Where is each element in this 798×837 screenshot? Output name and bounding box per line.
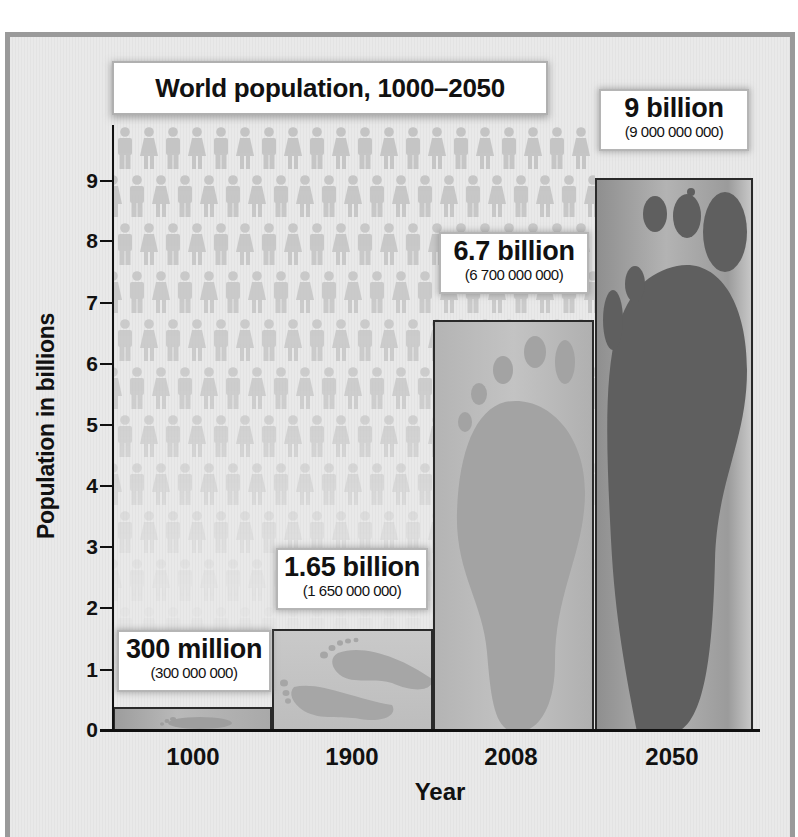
data-label-main: 9 billion bbox=[601, 93, 747, 123]
data-label-main: 1.65 billion bbox=[278, 552, 426, 582]
footprint-icon bbox=[597, 180, 753, 730]
data-label-sub: (300 000 000) bbox=[119, 664, 269, 681]
y-tick-label: 2 bbox=[76, 597, 98, 619]
y-tick-4 bbox=[100, 485, 113, 487]
x-tick-label: 1900 bbox=[292, 743, 412, 771]
y-tick-6 bbox=[100, 363, 113, 365]
data-label-sub: (9 000 000 000) bbox=[601, 123, 747, 140]
y-axis-title: Population in billions bbox=[33, 313, 60, 539]
y-tick-0 bbox=[100, 729, 113, 731]
data-label-sub: (1 650 000 000) bbox=[278, 582, 426, 599]
bar-2050 bbox=[595, 178, 753, 730]
data-label-2008: 6.7 billion (6 700 000 000) bbox=[441, 234, 587, 292]
y-tick-label: 6 bbox=[76, 353, 98, 375]
y-tick-label: 1 bbox=[76, 659, 98, 681]
data-label-sub: (6 700 000 000) bbox=[441, 266, 587, 283]
bar-2008 bbox=[433, 320, 594, 730]
data-label-main: 300 million bbox=[119, 634, 269, 664]
data-label-main: 6.7 billion bbox=[441, 236, 587, 266]
y-tick-8 bbox=[100, 240, 113, 242]
footprint-icon bbox=[435, 322, 594, 730]
x-tick-label: 2008 bbox=[451, 743, 571, 771]
data-label-2050: 9 billion (9 000 000 000) bbox=[601, 91, 747, 149]
y-tick-label: 9 bbox=[76, 170, 98, 192]
y-tick-label: 4 bbox=[76, 475, 98, 497]
x-axis-line bbox=[100, 729, 760, 732]
y-tick-label: 8 bbox=[76, 230, 98, 252]
x-tick-label: 1000 bbox=[133, 743, 253, 771]
y-tick-9 bbox=[100, 180, 113, 182]
y-tick-7 bbox=[100, 302, 113, 304]
y-tick-1 bbox=[100, 669, 113, 671]
footprint-icon bbox=[115, 709, 272, 730]
y-tick-label: 0 bbox=[76, 719, 98, 741]
y-tick-label: 5 bbox=[76, 414, 98, 436]
y-axis-line bbox=[112, 125, 114, 731]
x-tick-label: 2050 bbox=[612, 743, 732, 771]
y-tick-2 bbox=[100, 607, 113, 609]
y-tick-3 bbox=[100, 546, 113, 548]
y-tick-label: 3 bbox=[76, 536, 98, 558]
data-label-1900: 1.65 billion (1 650 000 000) bbox=[278, 550, 426, 608]
chart-title: World population, 1000–2050 bbox=[114, 63, 546, 113]
y-tick-5 bbox=[100, 424, 113, 426]
bar-1000 bbox=[113, 707, 272, 730]
y-tick-label: 7 bbox=[76, 292, 98, 314]
data-label-1000: 300 million (300 000 000) bbox=[119, 632, 269, 690]
bar-1900 bbox=[272, 629, 433, 730]
footprint-icon bbox=[274, 631, 433, 730]
x-axis-title: Year bbox=[380, 778, 500, 806]
